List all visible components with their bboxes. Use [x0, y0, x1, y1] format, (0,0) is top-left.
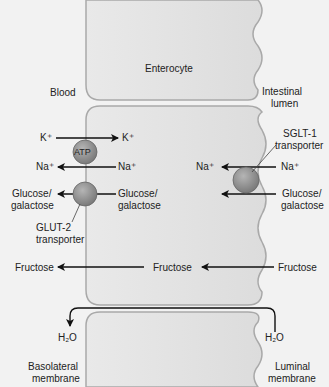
sglt1-na-left: Na⁺ [196, 161, 214, 172]
upper-enterocyte [86, 0, 262, 100]
glut2-right-glucose-1: Glucose/ [118, 188, 157, 199]
enterocyte-transport-diagram: Enterocyte Blood Intestinal lumen K⁺ K⁺ … [0, 0, 329, 387]
k-right-label: K⁺ [122, 132, 134, 143]
basolateral-label-1: Basolateral [28, 361, 78, 372]
na-left-label: Na⁺ [36, 161, 54, 172]
main-enterocyte [86, 106, 266, 305]
sglt1-name-1: SGLT-1 [283, 128, 317, 139]
na-right-label: Na⁺ [118, 161, 136, 172]
atp-label: ATP [74, 147, 91, 158]
sglt1-glucose-2: galactose [281, 200, 324, 211]
k-left-label: K⁺ [40, 132, 52, 143]
lumen-label-1: Intestinal [262, 86, 302, 97]
fructose-left: Fructose [15, 262, 54, 273]
luminal-label-1: Luminal [275, 361, 310, 372]
glut2-left-glucose-1: Glucose/ [12, 188, 51, 199]
sglt1-na-right: Na⁺ [281, 161, 299, 172]
basolateral-label-2: membrane [32, 373, 80, 384]
luminal-label-2: membrane [268, 373, 316, 384]
sglt1-name-2: transporter [275, 140, 323, 151]
glut2-name-2: transporter [36, 234, 84, 245]
glut2-name-1: GLUT-2 [36, 222, 71, 233]
fructose-middle: Fructose [153, 262, 192, 273]
glut2-right-glucose-2: galactose [118, 200, 161, 211]
fructose-right: Fructose [278, 262, 317, 273]
lumen-label-2: lumen [271, 98, 298, 109]
water-right: H₂O [265, 332, 284, 343]
blood-label: Blood [50, 87, 76, 98]
enterocyte-label: Enterocyte [145, 63, 193, 74]
glut2-left-glucose-2: galactose [11, 200, 54, 211]
sglt1-glucose-1: Glucose/ [282, 188, 321, 199]
lower-enterocyte [86, 312, 262, 387]
water-left: H₂O [58, 332, 77, 343]
